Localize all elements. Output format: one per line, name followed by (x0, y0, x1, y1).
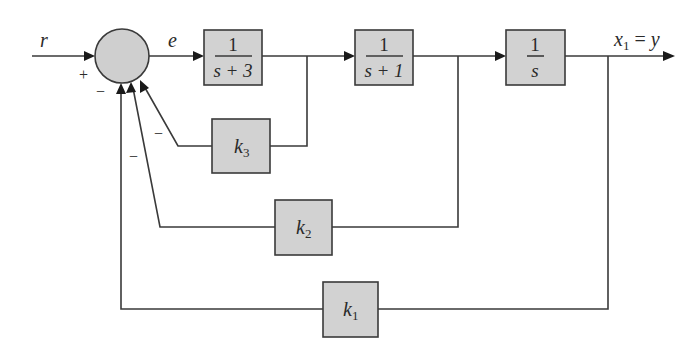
block-diagram: r + e 1 s + 3 1 s + 1 1 s x1 = y (0, 0, 697, 352)
arrow-icon (126, 82, 136, 93)
block-g1: 1 s + 3 (204, 30, 262, 85)
feedback-path-k1: k1 − (96, 56, 608, 337)
block-g2: 1 s + 1 (355, 30, 413, 85)
g1-numerator: 1 (228, 34, 238, 55)
feedback-path-k2: k2 − (126, 56, 458, 255)
minus-sign-k1: − (96, 83, 105, 100)
arrow-icon (663, 51, 675, 61)
output-signal: x1 = y (565, 28, 675, 61)
g1-denominator: s + 3 (213, 60, 252, 81)
error-label-e: e (168, 29, 177, 51)
input-label-r: r (40, 29, 48, 51)
arrow-icon (84, 51, 95, 61)
g3-denominator: s (531, 60, 538, 81)
arrow-icon (495, 51, 506, 61)
input-signal: r + (32, 29, 95, 83)
summing-junction (95, 29, 149, 83)
error-signal: e (149, 29, 204, 61)
arrow-icon (193, 51, 204, 61)
arrow-icon (344, 51, 355, 61)
g2-numerator: 1 (379, 34, 389, 55)
g2-denominator: s + 1 (364, 60, 403, 81)
plus-sign: + (79, 66, 88, 83)
minus-sign-k2: − (129, 148, 138, 165)
output-label: x1 = y (613, 28, 660, 53)
g3-numerator: 1 (530, 34, 540, 55)
block-g3: 1 s (506, 30, 565, 85)
minus-sign-k3: − (154, 125, 163, 142)
arrow-icon (116, 83, 126, 94)
